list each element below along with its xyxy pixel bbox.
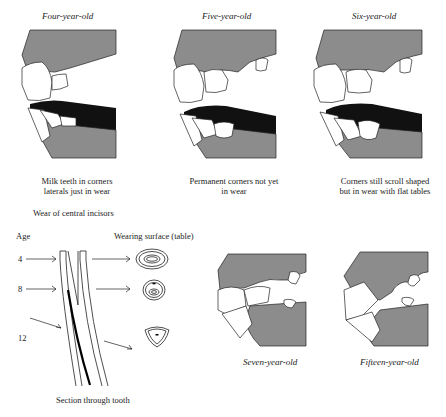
caption-line: laterals just in wear [22,186,132,196]
age-4: 4 [18,254,22,264]
caption-four-year-old: Milk teeth in corners laterals just in w… [22,176,132,196]
lower-corner [358,120,380,139]
caption-line: Milk teeth in corners [22,176,132,186]
dental-star [68,290,90,385]
upper-corner [408,275,420,286]
upper-corner [400,58,412,73]
arrow-age-12 [30,318,61,328]
caption-five-year-old: Permanent corners not yet in wear [174,176,294,196]
upper-incisor-lateral [52,74,68,90]
lower-corner [402,297,414,306]
age-label: Age [16,231,30,241]
panel-six-year-old [314,30,422,158]
age-12: 12 [18,333,27,343]
caption-line: Corners still scroll shaped [324,176,446,186]
arrows [26,256,132,349]
panel-title-fifteen: Fifteen-year-old [360,357,419,367]
lower-corner-milk [60,116,76,126]
caption-line: Permanent corners not yet [174,176,294,186]
panel-fifteen-year-old [344,252,428,346]
caption-line: in wear [174,186,294,196]
arrow-surface-12 [104,341,132,349]
caption-six-year-old: Corners still scroll shaped but in wear … [324,176,446,196]
lower-corner [214,122,234,138]
upper-incisor-central [22,62,52,101]
upper-corner [288,272,300,285]
panel-five-year-old [174,30,276,158]
tooth-section [60,251,108,386]
panel-seven-year-old [218,254,306,346]
upper-incisor-lateral [346,69,372,93]
upper-corner [256,58,268,71]
lower-gum [246,302,306,346]
upper-incisor-lateral [204,69,228,92]
panel-title-seven: Seven-year-old [243,357,297,367]
age-8: 8 [18,284,22,294]
wearing-surfaces [136,249,169,347]
wear-heading: Wear of central incisors [33,208,114,218]
caption-line: but in wear with flat tables [324,186,446,196]
section-caption: Section through tooth [56,395,130,405]
upper-incisor-2 [244,286,270,306]
surface-label: Wearing surface (table) [114,231,194,241]
panel-four-year-old [22,30,116,158]
table-age-4-outer [136,249,168,269]
